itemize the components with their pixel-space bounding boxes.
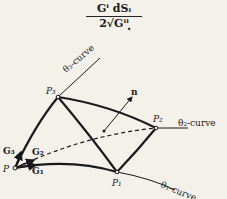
label-theta2-curve: θ₂-curve [178,118,216,128]
label-theta3-curve: θ₃-curve [61,43,96,75]
edge-P1-P2 [117,128,156,172]
label-n: n [131,87,138,97]
label-P3: P₃ [45,86,56,96]
label-P2: P₂ [152,114,163,124]
label-theta1-curve: θ₁-curve [159,180,198,199]
point-P3 [56,95,60,99]
point-P2 [154,126,158,130]
point-P [13,166,17,170]
edge-P-P3 [15,97,58,168]
point-P1 [115,170,119,174]
label-G2: G₂ [32,147,44,157]
surface-element-diagram: P P₁ P₂ P₃ G₁ G₂ G₃ n θ₁-curve θ₂-curve … [0,0,227,199]
label-G1: G₁ [32,166,44,176]
label-P: P [2,164,10,174]
edge-P3-P2 [58,97,156,128]
normal-vector-n [104,97,132,131]
label-G3: G₃ [3,146,15,156]
label-P1: P₁ [111,178,122,188]
